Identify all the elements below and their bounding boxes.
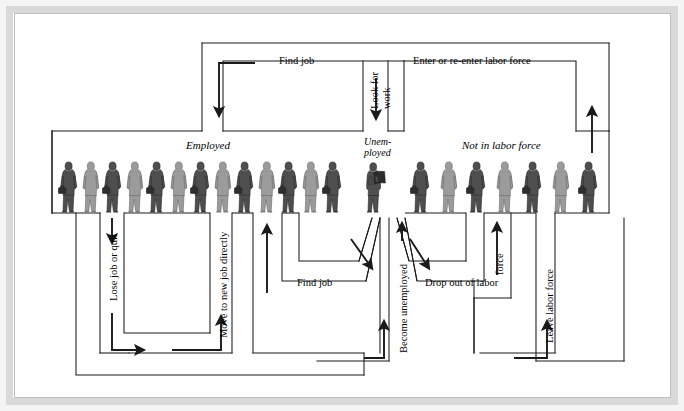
label-drop-out-of-labor: Drop out of labor [425,277,498,288]
people-not-in-labor-force [410,162,596,213]
label-drop-out-force: force [494,253,505,275]
guide-findjob-a [359,218,372,261]
label-not-in-labor-force: Not in labor force [462,140,541,152]
label-enter-or-reenter-labor-force: Enter or re-enter labor force [413,55,531,66]
label-find-job-bottom: Find job [297,277,332,288]
guide-dropout-a [397,218,409,261]
losejob-right-wall [124,213,210,333]
label-become-unemployed: Become unemployed [398,264,409,353]
label-lose-job-or-quit: Lose job or quit [108,234,119,301]
flow-arrows [112,63,592,358]
figure-page: Find job Enter or re-enter labor force L… [0,0,684,411]
enter-inner-right-wall [404,61,576,131]
arrow-dropout-diag [410,239,428,267]
guide-findjob-b [366,218,380,281]
label-leave-labor-force: Leave labor force [544,269,555,343]
label-employed: Employed [186,140,230,152]
label-find-job-top: Find job [279,55,314,66]
labor-force-flow-diagram [14,13,671,398]
arrow-find-job-top [219,63,255,114]
people-unemployed [367,163,386,213]
findjob-b-inner-left [282,213,366,281]
arrow-lose-job-return [112,313,142,350]
label-unemployed-line2: ployed [364,148,391,159]
label-unemployed-line1: Unem- [364,137,391,148]
findjob-b-inner-right [299,213,359,261]
label-look-for-work-line2: work [381,87,392,109]
diagram-canvas: Find job Enter or re-enter labor force L… [14,13,671,398]
arrow-become-unemployed-return [364,323,384,358]
label-look-for-work-line1: Look for [369,72,380,109]
people-employed [58,162,340,213]
arrow-move-new-job [172,318,221,350]
label-move-to-new-job-directly: Move to new job directly [218,232,229,338]
